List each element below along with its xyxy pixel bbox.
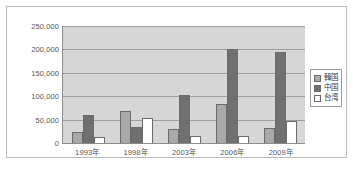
bar: [131, 127, 142, 143]
bar-group: [257, 26, 305, 143]
x-tick-label: 2009年: [257, 146, 305, 160]
legend-item-label: 韓国: [324, 73, 338, 83]
bar: [142, 118, 153, 143]
legend-swatch-icon: [314, 95, 321, 102]
x-tick-label: 2003年: [160, 146, 208, 160]
legend-item: 中国: [314, 83, 338, 93]
chart-legend: 韓国中国台湾: [310, 69, 342, 107]
bar: [238, 136, 249, 143]
bar-group: [209, 26, 257, 143]
y-tick-label: 150,000: [31, 68, 59, 77]
legend-item-label: 中国: [324, 83, 338, 93]
bar: [120, 111, 131, 143]
bar: [227, 49, 238, 143]
bar: [72, 132, 83, 143]
legend-swatch-icon: [314, 85, 321, 92]
bar-groups: [64, 26, 305, 143]
y-tick-label: 50,000: [35, 115, 59, 124]
legend-swatch-icon: [314, 75, 321, 82]
bar: [275, 52, 286, 143]
legend-item: 韓国: [314, 73, 338, 83]
bar-group: [112, 26, 160, 143]
bar: [216, 104, 227, 143]
y-tick-label: 250,000: [31, 22, 59, 31]
chart-frame: 050,000100,000150,000200,000250,000 1993…: [6, 6, 347, 158]
bar: [94, 137, 105, 143]
x-tick-label: 1993年: [63, 146, 111, 160]
bar: [168, 129, 179, 143]
bar-group: [64, 26, 112, 143]
plot-area: [62, 26, 305, 144]
y-axis: 050,000100,000150,000200,000250,000: [15, 26, 59, 143]
bar: [179, 95, 190, 143]
x-tick-label: 1998年: [111, 146, 159, 160]
y-tick-label: 0: [55, 139, 59, 148]
y-tick-label: 200,000: [31, 45, 59, 54]
bar: [83, 115, 94, 143]
legend-item-label: 台湾: [324, 93, 338, 103]
bar: [286, 121, 297, 143]
y-tick-label: 100,000: [31, 92, 59, 101]
x-axis: 1993年1998年2003年2006年2009年: [63, 146, 305, 160]
legend-item: 台湾: [314, 93, 338, 103]
chart-figure: 050,000100,000150,000200,000250,000 1993…: [0, 0, 353, 174]
bar: [264, 128, 275, 143]
bar: [190, 136, 201, 143]
bar-group: [160, 26, 208, 143]
x-tick-label: 2006年: [208, 146, 256, 160]
